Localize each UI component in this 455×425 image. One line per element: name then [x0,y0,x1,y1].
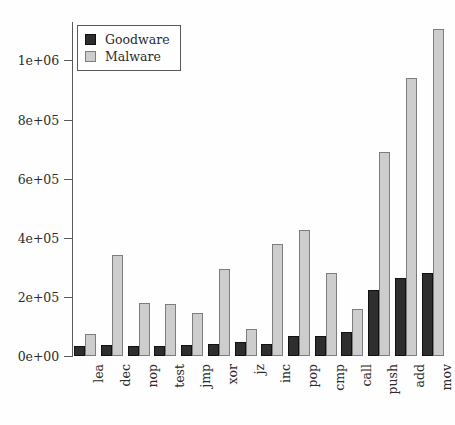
bar-malware-pop [299,230,310,357]
bar-malware-jmp [192,313,203,356]
bar-group [287,22,314,356]
x-axis-label-add: add [412,364,427,387]
bar-malware-test [165,304,176,356]
bar-goodware-jz [235,342,246,356]
bar-goodware-call [341,332,352,356]
bar-goodware-nop [128,346,139,356]
bar-group [233,22,260,356]
bar-series-container [73,22,447,356]
bar-malware-cmp [326,273,337,356]
y-axis-tick-label: 6e+05 [18,171,59,186]
chart-legend: Goodware Malware [77,25,181,71]
bar-goodware-jmp [181,345,192,356]
x-axis-label-test: test [172,364,187,388]
bar-goodware-mov [422,273,433,356]
bar-malware-call [352,309,363,356]
bar-goodware-dec [101,345,112,356]
bar-malware-inc [272,244,283,356]
malware-swatch-icon [85,51,96,62]
y-axis-tick [64,297,72,298]
y-axis-tick-label: 4e+05 [18,230,59,245]
x-axis-labels: leadecnoptestjmpxorjzincpopcmpcallpushad… [73,360,447,422]
bar-group [180,22,207,356]
x-axis-label-pop: pop [305,364,320,388]
bar-group [100,22,127,356]
bar-malware-lea [85,334,96,356]
bar-goodware-lea [74,346,85,356]
bar-malware-jz [246,329,257,356]
legend-item-goodware: Goodware [85,31,170,48]
x-axis-label-cmp: cmp [332,364,347,391]
y-axis-tick [64,179,72,180]
bar-group [73,22,100,356]
x-axis-label-push: push [385,364,400,395]
x-axis-label-jz: jz [252,364,267,374]
x-axis-label-nop: nop [145,364,160,388]
y-axis-tick-label: 2e+05 [18,289,59,304]
bar-goodware-cmp [315,336,326,356]
y-axis-tick-label: 8e+05 [18,112,59,127]
bar-malware-nop [139,303,150,356]
bar-malware-push [379,152,390,356]
bar-chart-figure: 0e+002e+054e+056e+058e+051e+06 leadecnop… [0,0,455,425]
x-axis-label-inc: inc [278,364,293,383]
bar-group [260,22,287,356]
x-axis-label-jmp: jmp [198,364,213,388]
bar-group [420,22,447,356]
bar-group [126,22,153,356]
bar-group [394,22,421,356]
bar-group [313,22,340,356]
legend-item-malware: Malware [85,48,170,65]
bar-group [367,22,394,356]
bar-malware-dec [112,255,123,356]
bar-malware-xor [219,269,230,356]
bar-group [207,22,234,356]
x-axis-label-call: call [359,364,374,386]
bar-group [340,22,367,356]
x-axis-label-lea: lea [91,364,106,383]
y-axis-tick-label: 1e+06 [18,53,59,68]
legend-label-malware: Malware [105,49,161,64]
goodware-swatch-icon [85,34,96,45]
y-axis-tick-label: 0e+00 [18,349,59,364]
bar-goodware-push [368,290,379,356]
bar-goodware-inc [261,344,272,356]
bar-group [153,22,180,356]
x-axis-label-dec: dec [118,364,133,386]
x-axis-label-xor: xor [225,364,240,385]
legend-label-goodware: Goodware [105,32,170,47]
bar-malware-mov [433,29,444,356]
y-axis-tick [64,60,72,61]
bar-goodware-test [154,346,165,356]
bar-malware-add [406,78,417,356]
bar-goodware-pop [288,336,299,356]
bar-goodware-xor [208,344,219,356]
x-axis-label-mov: mov [439,364,454,390]
y-axis-tick [64,356,72,357]
bar-goodware-add [395,278,406,356]
y-axis-tick [64,120,72,121]
y-axis-tick [64,238,72,239]
